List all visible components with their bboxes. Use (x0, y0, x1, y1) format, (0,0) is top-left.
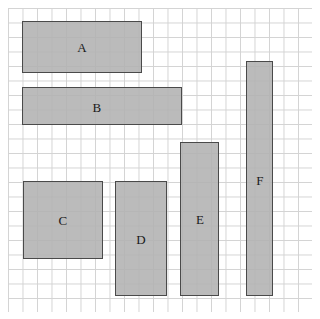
rectangle-label-c: C (59, 214, 68, 227)
rectangle-label-f: F (256, 174, 263, 187)
rectangle-label-b: B (93, 101, 102, 114)
rectangle-b[interactable] (22, 87, 182, 125)
rectangle-label-d: D (136, 233, 146, 246)
rectangle-label-e: E (196, 213, 204, 226)
rectangle-label-a: A (77, 41, 87, 54)
figure-canvas: ABCDEF (0, 0, 320, 319)
